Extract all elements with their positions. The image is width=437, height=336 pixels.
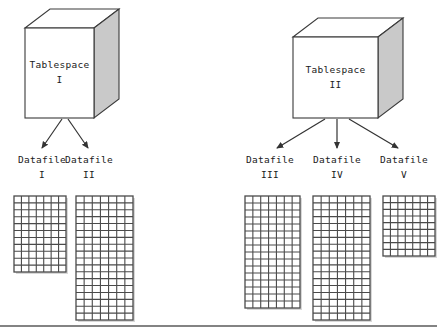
datafile-3-grid <box>245 196 302 310</box>
datafile-1-grid <box>14 196 68 274</box>
datafile-2-label-text: Datafile <box>56 152 122 167</box>
tablespace-1-label: TablespaceI <box>25 57 94 87</box>
arrow-to-datafile-1 <box>42 119 62 148</box>
datafile-5-label-text: Datafile <box>371 152 437 167</box>
tablespace-2-label-number: II <box>293 77 378 92</box>
datafile-3-label-number: III <box>237 167 303 182</box>
datafile-5-grid <box>383 196 437 258</box>
datafile-5-label: DatafileV <box>371 152 437 182</box>
tablespace-2-label-text: Tablespace <box>293 62 378 77</box>
datafile-2-grid <box>76 196 135 322</box>
datafile-2-label: DatafileII <box>56 152 122 182</box>
tablespace-1-side-face <box>94 9 119 118</box>
tablespace-1-label-text: Tablespace <box>25 57 94 72</box>
arrow-to-datafile-3 <box>277 119 325 148</box>
datafile-4-grid <box>313 196 372 322</box>
datafile-5-label-number: V <box>371 167 437 182</box>
tablespace-1-label-number: I <box>25 72 94 87</box>
tablespace-2-label: TablespaceII <box>293 62 378 92</box>
arrow-to-datafile-5 <box>349 119 398 148</box>
grids-layer <box>14 196 437 322</box>
arrow-to-datafile-2 <box>68 119 88 148</box>
datafile-4-label-number: IV <box>304 167 370 182</box>
diagram-canvas: TablespaceITablespaceIIDatafileIDatafile… <box>0 0 437 336</box>
datafile-3-label-text: Datafile <box>237 152 303 167</box>
datafile-4-label-text: Datafile <box>304 152 370 167</box>
datafile-4-label: DatafileIV <box>304 152 370 182</box>
datafile-2-label-number: II <box>56 167 122 182</box>
arrows-layer <box>42 119 398 148</box>
datafile-3-label: DatafileIII <box>237 152 303 182</box>
